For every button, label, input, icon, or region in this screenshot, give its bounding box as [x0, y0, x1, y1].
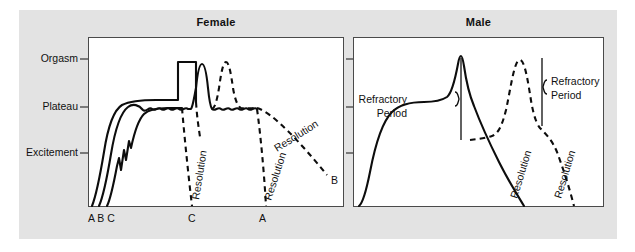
- male-annotations: Refractory Period Refractory Period Reso…: [359, 58, 601, 200]
- chart-overlay-svg: Resolution Resolution Resolution B Refra…: [0, 0, 635, 252]
- female-resolution-label-c: Resolution: [189, 149, 209, 200]
- figure-root: Female Male Orgasm Plateau Excitement A …: [0, 0, 635, 252]
- female-resolution-label-a: Resolution: [261, 151, 288, 202]
- refractory-label-2-line1: Refractory: [551, 75, 600, 87]
- male-resolution-label-2: Resolution: [551, 148, 577, 199]
- refractory-label-1-line1: Refractory: [359, 93, 408, 105]
- female-resolution-a: [196, 102, 200, 137]
- female-endpoint-label-b: B: [331, 174, 338, 186]
- refractory-label-1-line2: Period: [377, 107, 408, 119]
- refractory-label-2-line2: Period: [551, 89, 582, 101]
- male-resolution-label-1: Resolution: [507, 148, 533, 199]
- refractory-brace-2: [543, 80, 547, 94]
- female-curve-a: [92, 62, 196, 206]
- y-ticks-male: [346, 59, 353, 153]
- female-curve-b-resolution: [212, 62, 257, 109]
- refractory-brace-1: [455, 92, 459, 106]
- y-ticks-female: [80, 59, 88, 153]
- female-resolution-label-b: Resolution: [272, 117, 321, 154]
